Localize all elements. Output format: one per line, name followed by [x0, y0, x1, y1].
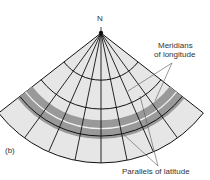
conic-grid	[0, 0, 210, 180]
conic-projection-diagram: N Meridians of longitude (b) Parallels o…	[0, 0, 210, 180]
meridians-label: Meridians of longitude	[158, 41, 195, 59]
north-pole-dot	[99, 31, 103, 35]
parallels-label: Parallels of latitude	[122, 167, 190, 176]
north-label: N	[97, 14, 103, 23]
panel-label: (b)	[5, 146, 15, 155]
